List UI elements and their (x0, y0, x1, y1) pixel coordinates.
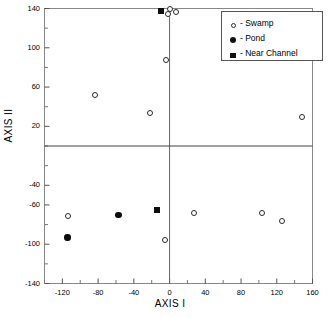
scatter-plot-figure: 1401006020-40-60-100-140 -120-80-4004080… (0, 0, 335, 318)
y-tick-label: -60 (8, 200, 40, 209)
y-tick-label: 100 (8, 43, 40, 52)
x-tick-label: 120 (261, 288, 293, 297)
x-tick-label: -120 (46, 288, 78, 297)
filled-square-icon (230, 53, 236, 59)
legend-marker-filled-square-icon (228, 44, 238, 62)
y-tick-label: -140 (8, 279, 40, 288)
legend-item: - Swamp (228, 16, 274, 30)
data-point-nearchannel (154, 207, 160, 213)
data-point-swamp (147, 110, 153, 116)
x-tick-label: 40 (189, 288, 221, 297)
legend-label: - Swamp (240, 18, 274, 28)
legend-label: - Near Channel (240, 48, 298, 58)
filled-circle-icon (230, 37, 236, 43)
x-axis-title: AXIS I (40, 298, 300, 309)
data-point-swamp (163, 57, 169, 63)
legend-item: - Near Channel (228, 46, 298, 60)
data-point-nearchannel (158, 8, 164, 14)
legend: - Swamp- Pond- Near Channel (221, 11, 323, 61)
y-tick-label: 60 (8, 82, 40, 91)
x-tick-label: 80 (225, 288, 257, 297)
data-point-swamp (259, 210, 265, 216)
data-point-pond (115, 212, 122, 219)
x-tick-label: -40 (118, 288, 150, 297)
y-tick-label: 140 (8, 4, 40, 13)
y-tick-label: -40 (8, 180, 40, 189)
x-tick-label: 0 (154, 288, 186, 297)
legend-label: - Pond (240, 33, 265, 43)
data-point-swamp (299, 114, 305, 120)
y-tick-label: -100 (8, 239, 40, 248)
y-axis-title: AXIS II (3, 96, 14, 156)
x-tick-label: -80 (82, 288, 114, 297)
x-tick-label: 160 (297, 288, 329, 297)
data-point-swamp (279, 218, 285, 224)
data-point-swamp (65, 213, 71, 219)
open-circle-icon (231, 23, 236, 28)
data-point-swamp (191, 210, 197, 216)
data-point-pond (64, 234, 71, 241)
legend-item: - Pond (228, 31, 265, 45)
